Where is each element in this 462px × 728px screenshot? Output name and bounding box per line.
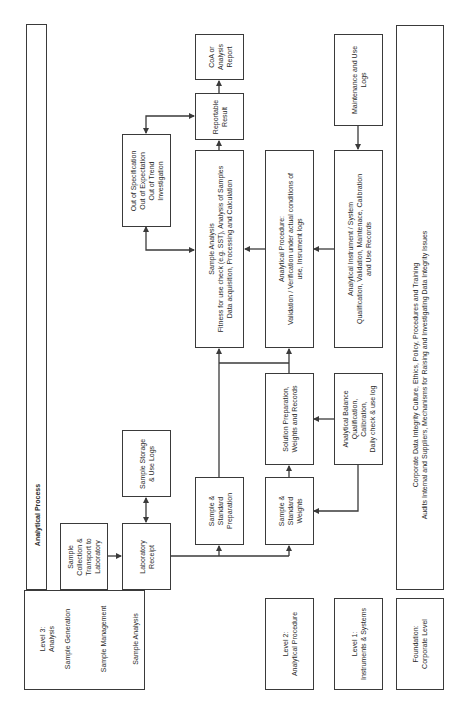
sample-collection-text: Sample Collection & Transport to Laborat… (66, 538, 102, 575)
level3-title-line1: Level 3: (38, 626, 47, 652)
analytical-process-banner: Analytical Process (26, 24, 47, 590)
text-line: Laboratory (138, 540, 147, 573)
text-line: Qualification, Validation, Maintenace, C… (354, 174, 363, 324)
level1-panel: Level 1: Instruments & Systems (334, 598, 383, 690)
maintenance-logs-text: Maintenance and Use Logs (350, 46, 368, 114)
text-line: Qualification, (350, 386, 359, 453)
text-line: Weights and Records (290, 386, 299, 453)
text-line: Logs (359, 46, 368, 114)
sample-storage-box: Sample Storage & Use Logs (122, 430, 171, 497)
solution-preparation-box: Solution Preparation, Weights and Record… (265, 373, 314, 465)
laboratory-receipt-box: Laboratory Receipt (122, 523, 171, 590)
text-line: Sample Storage (138, 438, 147, 488)
level3-title-line2: Analysis (47, 626, 56, 652)
level2-panel: Level 2: Analytical Procedure (265, 598, 314, 690)
sample-standard-preparation-box: Sample & Standard Preparation (195, 477, 244, 545)
text-line: & Use Logs (147, 438, 156, 488)
foundation-label: Foundation: Corporate Level (411, 619, 429, 669)
sample-standard-weights-text: Sample & Standard Weights (276, 496, 303, 526)
sample-standard-preparation-text: Sample & Standard Preparation (206, 493, 233, 529)
analytical-balance-box: Analytical Balance Qualification, Calibr… (334, 373, 383, 465)
text-line: Reportable (211, 99, 220, 133)
sample-standard-weights-box: Sample & Standard Weights (265, 477, 314, 545)
coa-report-box: CoA or Analysis Report (195, 34, 244, 80)
foundation-panel: Foundation: Corporate Level (396, 598, 444, 690)
text-line: Out of Trend (147, 150, 156, 211)
text-line: Analysis (215, 44, 224, 70)
oos-investigation-text: Out of Specification Out of Expectation … (129, 150, 165, 211)
text-line: and Use Records (363, 174, 372, 324)
laboratory-receipt-text: Laboratory Receipt (138, 540, 156, 573)
text-line: Sample & (276, 496, 285, 526)
corporate-data-integrity-text: Corporate Data Integrity Culture, Ethics… (411, 231, 429, 520)
text-line: Laboratory (93, 538, 102, 575)
text-line: Investigation (156, 150, 165, 211)
oos-investigation-box: Out of Specification Out of Expectation … (122, 134, 171, 227)
reportable-result-box: Reportable Result (195, 93, 244, 140)
foundation-line2: Corporate Level (420, 619, 429, 669)
level3-sample-management: Sample Management (99, 606, 108, 673)
text-line: Out of Specification (129, 150, 138, 211)
text-line: Receipt (147, 540, 156, 573)
text-line: Result (220, 99, 229, 133)
level3-panel: Level 3: Analysis Sample Generation Samp… (24, 590, 145, 690)
maintenance-logs-box: Maintenance and Use Logs (334, 34, 383, 126)
analytical-instrument-text: Analytical Instrument / System Qualifica… (345, 174, 372, 324)
text-line: Maintenance and Use (350, 46, 359, 114)
text-line: CoA or (206, 44, 215, 70)
text-line: Daily check & use log (368, 386, 377, 453)
analytical-procedure-box: Analytical Procedure: Validation / Verif… (265, 150, 314, 348)
text-line: use, Insrument logs (294, 173, 303, 325)
text-line: Analytical Instrument / System (345, 174, 354, 324)
text-line: Validation / Verification under actual c… (285, 173, 294, 325)
reportable-result-text: Reportable Result (211, 99, 229, 133)
text-line: Preparation (224, 493, 233, 529)
level2-label: Level 2: Analytical Procedure (281, 612, 299, 676)
text-line: Sample (66, 538, 75, 575)
level2-line2: Analytical Procedure (290, 612, 299, 676)
text-line: Standard (215, 493, 224, 529)
foundation-line1: Foundation: (411, 619, 420, 669)
analytical-instrument-box: Analytical Instrument / System Qualifica… (334, 150, 383, 348)
level1-line2: Instruments & Systems (359, 608, 368, 680)
text-line: Sample & (206, 493, 215, 529)
level3-sample-generation: Sample Generation (63, 609, 72, 669)
sample-collection-box: Sample Collection & Transport to Laborat… (60, 523, 108, 590)
analytical-balance-text: Analytical Balance Qualification, Calibr… (341, 386, 377, 453)
level3-sample-analysis: Sample Analysis (131, 613, 140, 664)
solution-preparation-text: Solution Preparation, Weights and Record… (281, 386, 299, 453)
text-line: Standard (285, 496, 294, 526)
text-line: Audits Internal and Suppliers, Mechanism… (420, 231, 429, 520)
analytical-procedure-text: Analytical Procedure: Validation / Verif… (276, 173, 303, 325)
text-line: Calibration, (359, 386, 368, 453)
text-line: Collection & (75, 538, 84, 575)
sample-storage-text: Sample Storage & Use Logs (138, 438, 156, 488)
analytical-process-title: Analytical Process (33, 484, 42, 546)
text-line: Transport to (84, 538, 93, 575)
level3-title: Level 3: Analysis (38, 626, 56, 652)
text-line: Weights (294, 496, 303, 526)
coa-report-text: CoA or Analysis Report (206, 44, 233, 70)
text-line: Fitness for use check (e.g. SST), Analys… (215, 166, 224, 333)
corporate-data-integrity-box: Corporate Data Integrity Culture, Ethics… (396, 25, 444, 590)
level1-label: Level 1: Instruments & Systems (350, 608, 368, 680)
text-line: Data acquisition, Processing and Calcula… (224, 166, 233, 333)
level2-line1: Level 2: (281, 612, 290, 676)
sample-analysis-box: Sample Analysis Fitness for use check (e… (195, 150, 244, 348)
text-line: Report (224, 44, 233, 70)
level1-line1: Level 1: (350, 608, 359, 680)
text-line: Corporate Data Integrity Culture, Ethics… (411, 231, 420, 520)
text-line: Out of Expectation (138, 150, 147, 211)
text-line: Sample Analysis (206, 166, 215, 333)
text-line: Analytical Balance (341, 386, 350, 453)
text-line: Solution Preparation, (281, 386, 290, 453)
sample-analysis-text: Sample Analysis Fitness for use check (e… (206, 166, 233, 333)
text-line: Analytical Procedure: (276, 173, 285, 325)
